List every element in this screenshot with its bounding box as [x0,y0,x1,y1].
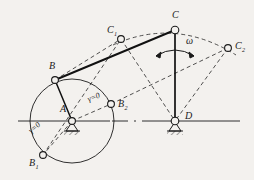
label-B1: B1 [29,158,39,170]
label-B2: B2 [118,99,128,111]
label-B1-sub: 1 [35,163,38,170]
joint-B2 [108,101,115,108]
dashed-coupler-B2-C2 [111,48,228,104]
label-C2-sub: 2 [242,46,245,53]
link-crank-AB [55,80,72,121]
construction-dashed-lines [43,39,228,155]
joint-C1 [118,36,125,43]
dashed-crank-A-B2 [72,104,111,121]
mechanism-solid-links [55,30,175,121]
joint-A [69,118,76,125]
label-C1-sub: 1 [114,30,117,37]
joint-D [171,117,179,125]
label-B: B [49,61,55,71]
dashed-coupler-B-C1 [55,39,121,80]
dashed-rocker-C2-D [175,48,228,121]
joint-B [52,77,59,84]
label-C2-main: C [235,40,242,51]
label-C2: C2 [235,41,245,53]
joint-C [171,26,179,34]
label-C: C [172,10,179,20]
label-omega: ω [186,36,193,46]
label-C1: C1 [107,25,117,37]
label-C1-main: C [107,24,114,35]
joint-B1 [40,152,47,159]
label-A: A [60,104,66,114]
joint-C2 [225,45,232,52]
dashed-crank-A-B1 [43,121,72,155]
linkage-diagram-canvas [0,0,254,180]
label-D: D [185,111,192,121]
label-B2-sub: 2 [124,104,127,111]
